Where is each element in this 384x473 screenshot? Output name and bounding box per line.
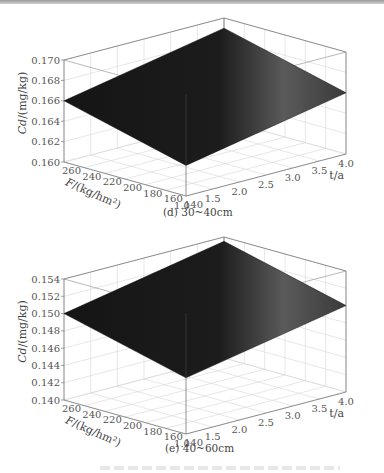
z-tick-label: 0.142 [31,377,60,388]
t-tick-label: 3.5 [311,165,327,176]
f-tick-label: 200 [123,420,142,431]
z-tick-label: 0.164 [31,116,60,127]
z-tick-label: 0.160 [31,157,60,168]
f-tick-label: 240 [82,171,101,182]
truncated-caption-fragment [100,466,340,470]
z-tick-label: 0.144 [31,360,60,371]
t-tick-label: 4.0 [338,396,354,407]
t-tick-label: 3.5 [311,403,327,414]
z-axis-label: Cd/(mg/kg) [16,300,29,363]
caption-d: (d) 30~40cm [163,206,233,218]
z-tick-label: 0.170 [31,55,60,66]
f-tick-label: 260 [62,403,81,414]
f-tick-label: 180 [143,426,162,437]
t-tick-label: 2.5 [258,179,274,190]
z-tick-label: 0.148 [31,325,60,336]
f-tick-label: 180 [143,188,162,199]
caption-e: (e) 40~60cm [165,442,234,454]
z-tick-label: 0.166 [31,95,60,106]
f-tick-label: 220 [103,414,122,425]
f-tick-label: 240 [82,409,101,420]
t-tick-label: 2.0 [231,186,247,197]
surface-plot-e: 0.1400.1420.1440.1460.1480.1500.1520.154… [0,236,384,468]
z-tick-label: 0.168 [31,75,60,86]
t-tick-label: 3.0 [285,410,301,421]
t-axis-label: t/a [329,169,344,182]
z-tick-label: 0.162 [31,136,60,147]
t-tick-label: 4.0 [338,158,354,169]
z-tick-label: 0.154 [31,274,60,285]
t-tick-label: 3.0 [285,172,301,183]
response-surface [64,241,346,377]
z-tick-label: 0.152 [31,291,60,302]
f-tick-label: 260 [62,165,81,176]
z-tick-label: 0.150 [31,308,60,319]
z-axis-label: Cd/(mg/kg) [16,72,29,135]
z-tick-label: 0.146 [31,343,60,354]
f-tick-label: 220 [103,176,122,187]
z-tick-label: 0.140 [31,395,60,406]
surface-plot-d: 0.1600.1620.1640.1660.1680.170Cd/(mg/kg)… [0,0,384,232]
t-tick-label: 2.5 [258,417,274,428]
t-tick-label: 1.5 [205,193,221,204]
f-tick-label: 200 [123,182,142,193]
t-axis-label: t/a [329,407,344,420]
t-tick-label: 1.5 [205,431,221,442]
t-tick-label: 2.0 [231,424,247,435]
